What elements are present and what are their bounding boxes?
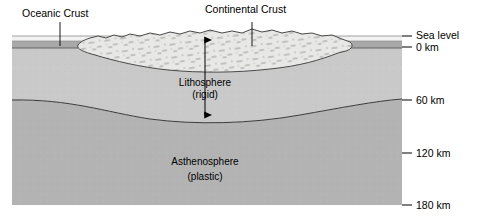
diagram-canvas: Sea level 0 km 60 km 120 km 180 km Ocean… bbox=[0, 0, 481, 221]
label-oceanic-crust: Oceanic Crust bbox=[22, 7, 89, 19]
cross-section-svg: Sea level 0 km 60 km 120 km 180 km Ocean… bbox=[0, 0, 481, 221]
label-lithosphere: Lithosphere bbox=[179, 77, 232, 88]
label-asthenosphere-sub: (plastic) bbox=[187, 171, 222, 182]
label-continental-crust: Continental Crust bbox=[205, 3, 286, 15]
scale-label-60km: 60 km bbox=[416, 94, 445, 106]
scale-label-180km: 180 km bbox=[416, 199, 451, 211]
scale-label-0km: 0 km bbox=[416, 41, 439, 53]
scale-label-120km: 120 km bbox=[416, 147, 451, 159]
scale-label-sea-level: Sea level bbox=[416, 29, 459, 41]
label-asthenosphere: Asthenosphere bbox=[171, 156, 239, 167]
label-lithosphere-sub: (rigid) bbox=[192, 89, 218, 100]
